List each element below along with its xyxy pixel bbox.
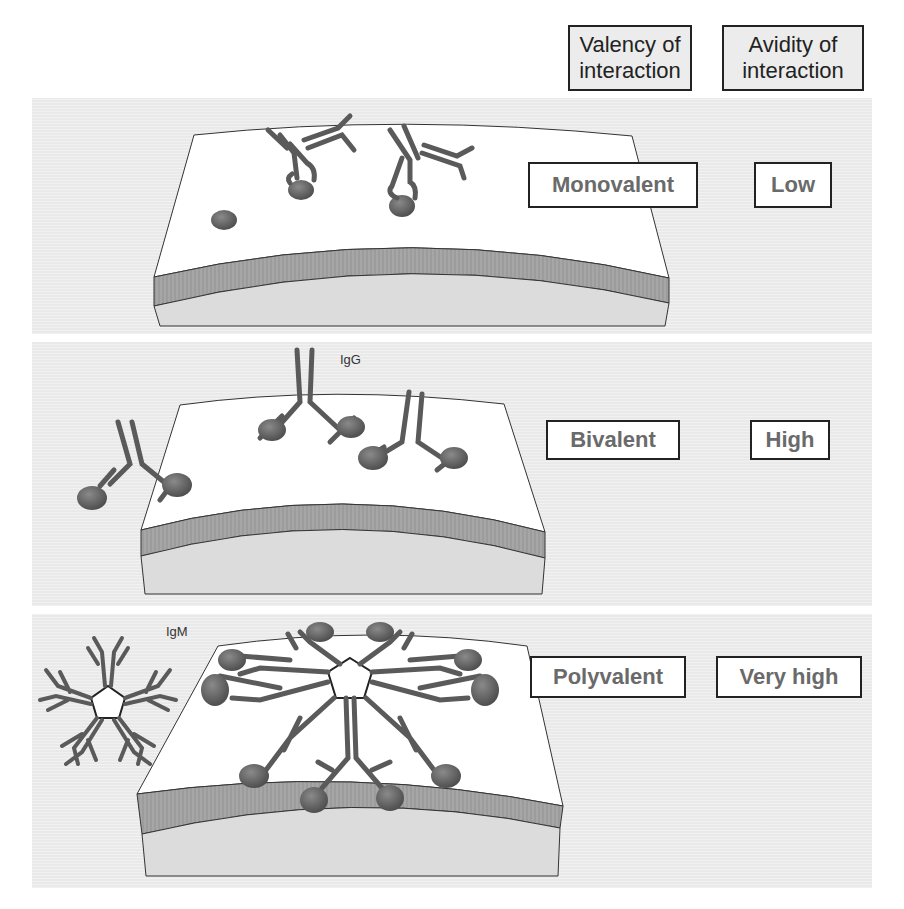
antigen-icon xyxy=(211,210,237,230)
valency-header-line2: interaction xyxy=(579,58,681,84)
avidity-column-header: Avidity of interaction xyxy=(722,25,864,91)
polyvalent-panel: IgM Polyvalent Very high xyxy=(32,614,872,888)
monovalent-illustration xyxy=(32,98,872,334)
igm-pentamer-icon xyxy=(40,638,176,764)
igg-label: IgG xyxy=(340,352,361,367)
avidity-label-high: High xyxy=(750,420,830,460)
avidity-label-very-high: Very high xyxy=(716,656,862,698)
valency-header-line1: Valency of xyxy=(579,32,681,58)
valency-label-bivalent: Bivalent xyxy=(546,420,680,460)
avidity-header-line2: interaction xyxy=(742,58,844,84)
bivalent-illustration xyxy=(32,342,872,606)
avidity-header-line1: Avidity of xyxy=(742,32,844,58)
monovalent-panel: Monovalent Low xyxy=(32,98,872,334)
bivalent-panel: IgG Bivalent High xyxy=(32,342,872,606)
valency-column-header: Valency of interaction xyxy=(568,25,692,91)
avidity-label-low: Low xyxy=(754,162,832,208)
valency-label-polyvalent: Polyvalent xyxy=(530,656,686,698)
valency-label-monovalent: Monovalent xyxy=(528,162,698,208)
igm-label: IgM xyxy=(166,624,188,639)
